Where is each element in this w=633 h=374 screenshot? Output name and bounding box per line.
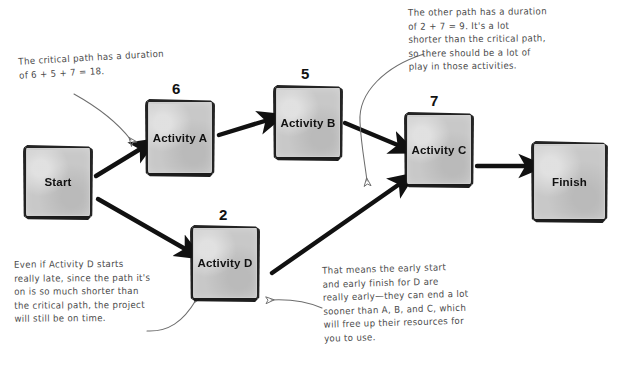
annotation-other-path-duration: The other path has a duration of 2 + 7 =…: [408, 4, 629, 74]
edge-start-to-activity-a: [96, 148, 142, 176]
node-activity-c-duration: 7: [430, 92, 438, 109]
node-activity-d-label: Activity D: [197, 257, 252, 270]
edge-start-to-activity-d: [98, 199, 187, 250]
edge-activity-b-to-activity-c: [345, 123, 400, 146]
edge-activity-d-to-activity-c: [272, 183, 401, 273]
node-activity-d-duration: 2: [219, 206, 227, 223]
annotation-activity-d-late-start: Even if Activity D starts really late, s…: [14, 257, 204, 326]
node-activity-c[interactable]: Activity C: [406, 115, 472, 185]
callout-arrow-critical-path: [74, 94, 131, 140]
node-activity-a-duration: 6: [172, 80, 180, 97]
node-activity-b-duration: 5: [301, 65, 309, 82]
node-activity-b[interactable]: Activity B: [275, 88, 341, 158]
node-activity-b-label: Activity B: [280, 117, 335, 130]
diagram-canvas: Start 6 Activity A 5 Activity B 7 Activi…: [0, 0, 633, 374]
node-activity-a-label: Activity A: [153, 132, 208, 145]
edge-activity-a-to-activity-b: [219, 120, 268, 135]
callout-arrow-early-start: [271, 300, 322, 308]
node-activity-c-label: Activity C: [411, 144, 466, 157]
node-start-label: Start: [44, 176, 71, 189]
node-finish[interactable]: Finish: [533, 144, 606, 220]
node-start[interactable]: Start: [25, 148, 91, 217]
node-finish-label: Finish: [552, 176, 587, 189]
node-activity-a[interactable]: Activity A: [147, 102, 213, 174]
annotation-early-start-finish: That means the early start and early fin…: [322, 258, 539, 346]
